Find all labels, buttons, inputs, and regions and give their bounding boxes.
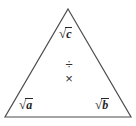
sqrt-c-label: √c (58, 27, 72, 40)
radicand-a: a (25, 98, 33, 111)
radicand-c: c (65, 27, 72, 40)
sqrt-b-label: √b (94, 98, 109, 111)
radical-sign-a: √ (18, 98, 26, 111)
radicand-b: b (101, 98, 109, 111)
multiply-operator: × (60, 72, 78, 85)
radical-sign-c: √ (58, 27, 66, 40)
sqrt-a-label: √a (18, 98, 33, 111)
radical-sign-b: √ (94, 98, 102, 111)
triangle-formula-diagram: √c ÷ × √a √b (0, 0, 136, 126)
divide-operator: ÷ (60, 58, 78, 71)
